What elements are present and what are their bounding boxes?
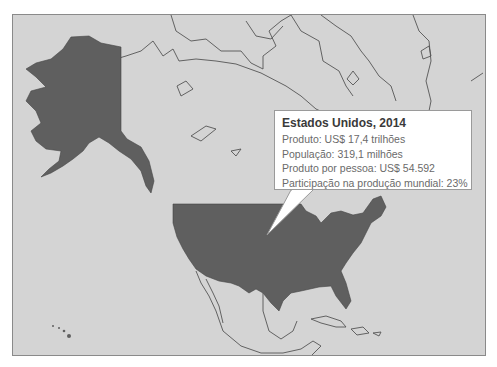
hawaii bbox=[52, 325, 71, 338]
callout-product: Produto: US$ 17,4 trilhões bbox=[282, 132, 471, 147]
alaska bbox=[26, 36, 154, 193]
callout-population: População: 319,1 milhões bbox=[282, 147, 471, 162]
callout-per-capita: Produto por pessoa: US$ 54.592 bbox=[282, 161, 471, 176]
callout-title: Estados Unidos, 2014 bbox=[282, 116, 471, 131]
callout-world-share: Participação na produção mundial: 23% bbox=[282, 176, 471, 191]
info-callout: Estados Unidos, 2014 Produto: US$ 17,4 t… bbox=[274, 110, 472, 190]
caribbean-outlines bbox=[311, 316, 381, 336]
